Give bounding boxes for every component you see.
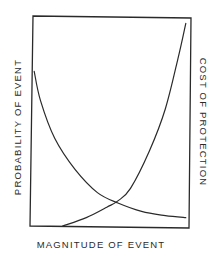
- plot-frame: [30, 16, 191, 228]
- x-axis-label: MAGNITUDE OF EVENT: [37, 239, 166, 250]
- cost-curve: [63, 23, 186, 226]
- right-axis-label: COST OF PROTECTION: [198, 58, 209, 187]
- left-axis-label: PROBABILITY OF EVENT: [12, 59, 23, 195]
- chart-canvas: [0, 0, 216, 258]
- probability-curve: [34, 71, 186, 217]
